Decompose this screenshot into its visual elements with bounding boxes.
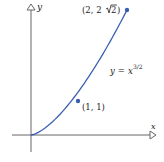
svg-text:(2, 2: (2, 2 bbox=[82, 5, 102, 15]
x-axis-label: x bbox=[151, 122, 156, 131]
point-2-radicand: 2 bbox=[111, 5, 116, 15]
point-2-2root2 bbox=[125, 8, 129, 12]
x-axis-arrow-icon bbox=[150, 131, 156, 139]
point-1-1-label: (1, 1) bbox=[82, 102, 105, 112]
point-2-label-suffix: ) bbox=[117, 5, 120, 15]
point-2-label: (2, 2 2 ) bbox=[82, 5, 120, 15]
y-axis-arrow-icon bbox=[27, 4, 35, 10]
equation-equals: = bbox=[115, 66, 128, 76]
point-1-1 bbox=[76, 99, 80, 103]
equation-label: y = x 3/2 bbox=[109, 63, 143, 76]
equation-exponent: 3/2 bbox=[133, 63, 143, 70]
graph: y x (1, 1) (2, 2 2 ) y = x 3/2 bbox=[0, 0, 164, 162]
y-axis-label: y bbox=[36, 2, 43, 12]
point-2-label-prefix: (2, 2 bbox=[82, 5, 102, 15]
